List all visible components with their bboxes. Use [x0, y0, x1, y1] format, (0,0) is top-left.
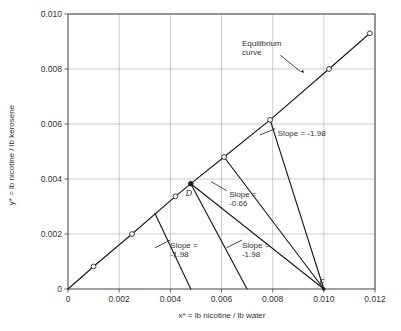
point-marker-f: [322, 287, 326, 291]
x-tick-label: 0.008: [262, 294, 284, 304]
data-marker: [367, 31, 372, 36]
x-tick-label: 0.004: [160, 294, 182, 304]
annotation-label: Slope = -1.98: [278, 129, 326, 138]
point-label-f: F: [318, 277, 325, 287]
x-tick-label: 0.012: [364, 294, 386, 304]
x-tick-label: 0.002: [109, 294, 131, 304]
x-tick-label: 0.010: [313, 294, 335, 304]
x-tick-label: 0.006: [211, 294, 233, 304]
y-tick-label: 0: [57, 284, 62, 294]
x-axis-title: x* = lb nicotine / lb water: [179, 311, 266, 320]
data-marker: [268, 117, 273, 122]
data-marker: [130, 232, 135, 237]
y-tick-label: 0.010: [41, 9, 63, 19]
y-axis-title: y* = lb nicotine / lb kerosene: [7, 104, 16, 205]
data-marker: [327, 67, 332, 72]
point-label-d: D: [185, 188, 193, 198]
point-marker-d: [189, 181, 193, 185]
y-tick-label: 0.008: [41, 64, 63, 74]
chart-figure: 00.0020.0040.0060.0080.0100.012 00.0020.…: [0, 0, 401, 331]
y-tick-label: 0.004: [41, 174, 63, 184]
x-tick-label: 0: [66, 294, 71, 304]
nicotine-equilibrium-chart: 00.0020.0040.0060.0080.0100.012 00.0020.…: [0, 0, 401, 331]
data-marker: [222, 155, 227, 160]
y-tick-label: 0.006: [41, 119, 63, 129]
y-tick-label: 0.002: [41, 229, 63, 239]
chart-background: [0, 0, 401, 331]
data-marker: [91, 264, 96, 269]
data-marker: [173, 194, 178, 199]
